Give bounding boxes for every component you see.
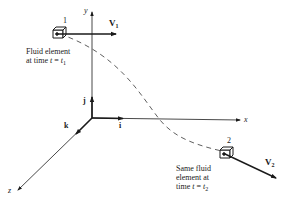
y-axis-label: y xyxy=(84,6,88,15)
velocity-v2-label: V2 xyxy=(265,158,275,170)
z-axis-label: z xyxy=(8,186,11,195)
caption-eq: = xyxy=(52,56,61,65)
v1-subscript: 1 xyxy=(116,23,119,29)
element-1-caption-line2: at time t = t1 xyxy=(26,56,70,68)
fluid-element-1-cube-icon xyxy=(53,27,66,38)
caption-prefix: time xyxy=(176,182,192,191)
diagram-canvas xyxy=(0,0,291,207)
unit-vector-i xyxy=(92,118,123,119)
v2-subscript: 2 xyxy=(272,162,275,168)
element-1-caption-line1: Fluid element xyxy=(26,47,70,56)
element-1-caption: Fluid element at time t = t1 xyxy=(26,47,70,68)
x-axis-label: x xyxy=(244,115,248,124)
element-2-caption: Same fluid element at time t = t2 xyxy=(176,164,211,194)
unit-vector-k-label: k xyxy=(64,121,68,130)
pathline-dashed xyxy=(60,34,226,152)
velocity-v1-label: V1 xyxy=(109,19,119,31)
element-2-caption-line2: element at xyxy=(176,173,211,182)
unit-vector-i-label: i xyxy=(119,121,121,130)
unit-vector-k xyxy=(76,118,92,134)
element-1-number: 1 xyxy=(63,16,67,25)
caption-prefix: at time xyxy=(26,56,50,65)
element-2-number: 2 xyxy=(227,136,231,145)
caption-t1-sub: 1 xyxy=(63,60,66,66)
caption-eq: = xyxy=(194,182,203,191)
element-2-caption-line1: Same fluid xyxy=(176,164,211,173)
element-2-caption-line3: time t = t2 xyxy=(176,182,211,194)
unit-vector-j-label: j xyxy=(83,96,86,105)
caption-t2-sub: 2 xyxy=(205,186,208,192)
